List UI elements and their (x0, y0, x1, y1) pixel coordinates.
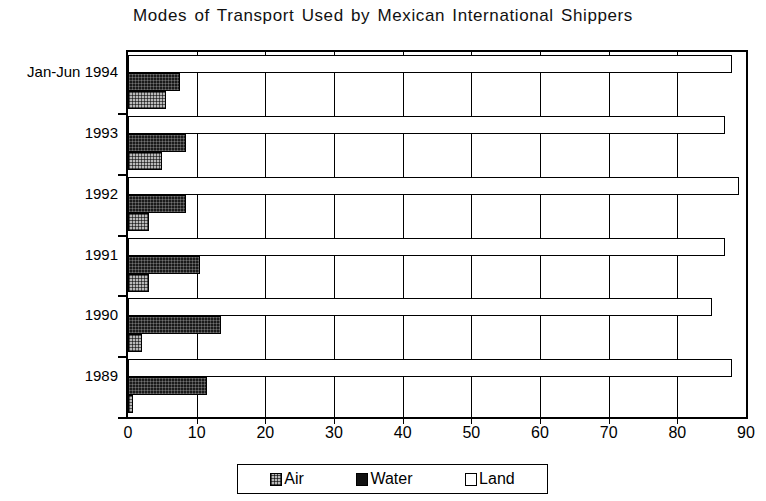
y-axis-tick (118, 356, 126, 358)
x-axis-tick-mark (197, 419, 198, 424)
bar-land-1991 (128, 238, 725, 256)
chart-container: Modes of Transport Used by Mexican Inter… (0, 0, 766, 501)
y-axis-tick (118, 295, 126, 297)
bar-water-1992 (128, 195, 186, 213)
air-swatch-icon (270, 473, 282, 486)
x-axis-tick-label: 30 (314, 424, 354, 442)
y-axis-tick (118, 113, 126, 115)
x-axis-tick-mark (677, 419, 678, 424)
x-axis-tick-mark (609, 419, 610, 424)
chart-title: Modes of Transport Used by Mexican Inter… (0, 6, 766, 26)
y-axis-tick (118, 174, 126, 176)
y-axis-category-label: 1989 (0, 367, 118, 384)
water-swatch-icon (356, 473, 368, 486)
x-axis-tick-label: 10 (177, 424, 217, 442)
bar-water-1989 (128, 377, 207, 395)
x-axis-tick-mark (540, 419, 541, 424)
y-axis-category-label: 1992 (0, 185, 118, 202)
legend-item-label: Land (479, 470, 515, 488)
x-axis-tick-mark (471, 419, 472, 424)
x-axis-tick-label: 80 (657, 424, 697, 442)
x-axis-tick-label: 60 (520, 424, 560, 442)
bar-land-jan-jun-1994 (128, 55, 732, 73)
legend-item-air[interactable]: Air (270, 470, 304, 488)
bar-water-1990 (128, 316, 221, 334)
x-axis-tick-label: 70 (589, 424, 629, 442)
x-axis-tick-label: 40 (383, 424, 423, 442)
legend-item-label: Air (284, 470, 304, 488)
y-axis-category-label: 1990 (0, 306, 118, 323)
bar-air-1992 (128, 213, 149, 231)
y-axis-category-label: Jan-Jun 1994 (0, 63, 118, 80)
chart-legend: AirWaterLand (237, 464, 548, 494)
x-axis-tick-label: 20 (245, 424, 285, 442)
x-axis-tick-label: 0 (108, 424, 148, 442)
bar-land-1989 (128, 359, 732, 377)
bar-water-1991 (128, 256, 200, 274)
bar-land-1990 (128, 298, 712, 316)
bar-land-1992 (128, 177, 739, 195)
x-axis-tick-label: 50 (451, 424, 491, 442)
bar-air-1990 (128, 334, 142, 352)
land-swatch-icon (465, 473, 477, 486)
legend-item-label: Water (370, 470, 412, 488)
bar-water-jan-jun-1994 (128, 73, 180, 91)
plot-area (126, 50, 748, 419)
y-axis-tick (118, 417, 126, 419)
bar-air-1991 (128, 274, 149, 292)
x-axis-tick-mark (265, 419, 266, 424)
bar-air-1993 (128, 152, 162, 170)
legend-item-land[interactable]: Land (465, 470, 515, 488)
x-axis-tick-label: 90 (726, 424, 766, 442)
y-axis-category-label: 1991 (0, 246, 118, 263)
y-axis-tick (118, 235, 126, 237)
y-axis-category-label: 1993 (0, 124, 118, 141)
x-axis-tick-mark (403, 419, 404, 424)
bar-water-1993 (128, 134, 186, 152)
bar-land-1993 (128, 116, 725, 134)
x-axis-tick-mark (334, 419, 335, 424)
bar-air-1989 (128, 395, 133, 413)
legend-item-water[interactable]: Water (356, 470, 412, 488)
bar-air-jan-jun-1994 (128, 91, 166, 109)
plot-inner (128, 52, 746, 417)
